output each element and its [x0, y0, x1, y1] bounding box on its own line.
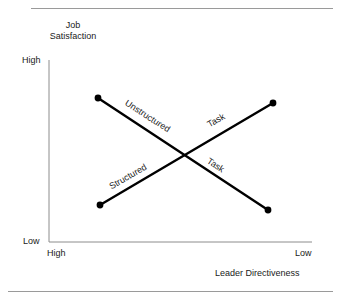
y-axis-title-line-2: Satisfaction [38, 31, 108, 42]
data-point-marker [270, 100, 277, 107]
data-point-marker [265, 207, 272, 214]
data-point-marker [97, 202, 104, 209]
y-axis-tick-low: Low [23, 236, 40, 247]
series-line-unstructured-task [98, 98, 268, 210]
x-axis-tick-high: High [47, 248, 66, 259]
y-axis-title: Job Satisfaction [38, 20, 108, 42]
figure: Job Satisfaction High Low High Low Leade… [0, 0, 339, 301]
y-axis-tick-high: High [22, 55, 41, 66]
data-point-marker [95, 95, 102, 102]
x-axis-tick-low: Low [295, 248, 312, 259]
y-axis-title-line-1: Job [38, 20, 108, 31]
series-line-structured-task [100, 103, 273, 205]
x-axis-title: Leader Directiveness [215, 268, 300, 279]
